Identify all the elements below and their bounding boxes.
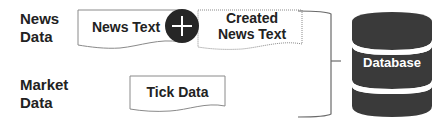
plus-operator-icon [165,9,199,43]
created-news-text-document: Created News Text [204,10,300,42]
database-label: Database [356,55,428,71]
data-pipeline-diagram: News Data Market Data News Text Created … [0,0,441,125]
bracket-connector [298,11,331,117]
tick-data-document: Tick Data [130,84,225,100]
news-data-label: News Data [20,10,59,46]
news-text-document: News Text [84,19,168,35]
market-data-label: Market Data [20,76,68,112]
